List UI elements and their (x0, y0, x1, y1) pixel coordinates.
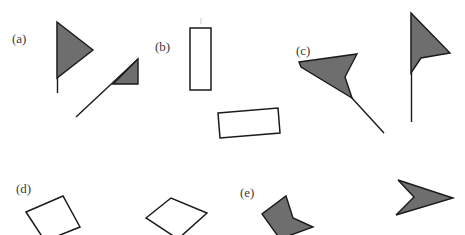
right-triangle-a (113, 59, 138, 84)
panel-label-b: (b) (155, 40, 170, 53)
panel-label-a: (a) (12, 32, 26, 45)
panel-b-shapes (190, 18, 280, 138)
figure-container: (a) (b) (c) (d) (e) (0, 0, 465, 235)
panel-d-shapes (26, 196, 207, 235)
vertical-rectangle-b (190, 28, 211, 90)
concave-dart-c (299, 54, 357, 98)
right-quadrilateral-d (146, 198, 207, 235)
dart-tail-line-c (351, 97, 384, 133)
shape-canvas (0, 0, 465, 235)
flag-pennant-triangle-a (57, 22, 93, 78)
panel-label-e: (e) (240, 186, 254, 199)
panel-label-c: (c) (296, 44, 310, 57)
panel-e-shapes (262, 180, 453, 235)
tilted-rectangle-b (218, 108, 280, 138)
flag-pennant-dart-c (411, 13, 450, 73)
right-concave-dart-e (396, 180, 453, 215)
panel-c-shapes (299, 13, 450, 133)
panel-label-d: (d) (16, 182, 31, 195)
panel-a-shapes (57, 22, 138, 117)
left-quadrilateral-d (26, 196, 80, 235)
left-concave-dart-e (262, 196, 313, 235)
